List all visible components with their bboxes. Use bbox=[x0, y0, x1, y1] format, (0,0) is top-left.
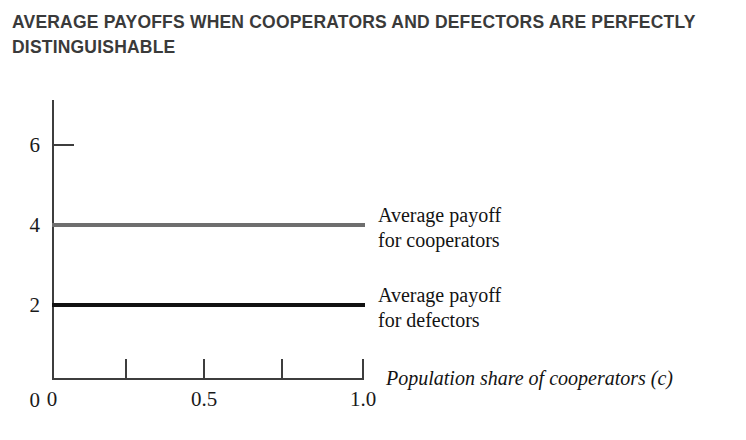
y-tick-label-0: 0 bbox=[30, 390, 41, 411]
y-tick-label-2: 2 bbox=[30, 295, 41, 316]
y-tick-label-4: 4 bbox=[30, 215, 41, 236]
y-tick-label-6: 6 bbox=[30, 135, 41, 156]
series-line-defectors bbox=[52, 303, 365, 307]
chart-figure: AVERAGE PAYOFFS WHEN COOPERATORS AND DEF… bbox=[0, 0, 746, 440]
axes-lines bbox=[52, 100, 364, 380]
x-axis-title: Population share of cooperators (c) bbox=[386, 368, 673, 388]
chart-title: AVERAGE PAYOFFS WHEN COOPERATORS AND DEF… bbox=[12, 10, 732, 60]
series-line-cooperators bbox=[52, 223, 365, 227]
x-tick-label-1.0: 1.0 bbox=[350, 389, 376, 410]
series-annotation-defectors: Average payoff for defectors bbox=[378, 283, 501, 333]
plot-area: 6 4 2 0 0 0.5 1.0 bbox=[52, 100, 364, 380]
x-tick-label-0.5: 0.5 bbox=[191, 389, 217, 410]
series-annotation-cooperators: Average payoff for cooperators bbox=[378, 203, 501, 253]
x-tick-label-0: 0 bbox=[47, 389, 58, 410]
